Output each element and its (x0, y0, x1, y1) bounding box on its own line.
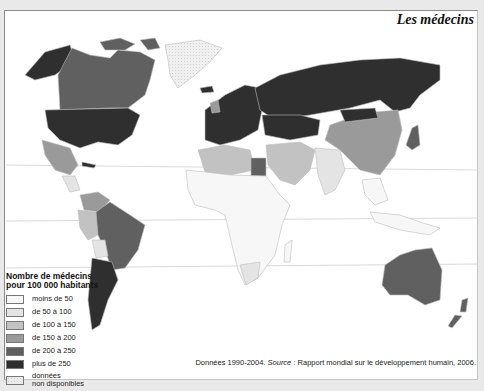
legend-label: de 200 à 250 (32, 347, 76, 355)
region-central-asia (262, 115, 320, 140)
legend-item: plus de 250 (6, 358, 126, 370)
legend-label: de 150 à 200 (32, 334, 76, 342)
region-brazil (96, 202, 145, 270)
region-usa (45, 108, 140, 148)
legend-label-line2: non disponibles (32, 380, 84, 388)
region-australia (382, 248, 442, 305)
legend-swatch (6, 360, 24, 369)
region-india (315, 148, 345, 195)
region-arctic-islands (100, 38, 160, 50)
region-central-america (62, 176, 80, 192)
source-note: Données 1990-2004. Source : Rapport mond… (195, 358, 476, 367)
region-iceland (200, 86, 214, 93)
legend-title-line2: pour 100 000 habitants (6, 281, 126, 290)
region-peru (78, 210, 98, 240)
map-title: Les médecins (397, 12, 474, 28)
region-middle-east (266, 142, 315, 185)
region-sub-saharan-africa (186, 170, 290, 285)
legend-item: de 100 à 150 (6, 319, 126, 331)
region-cuba (82, 162, 96, 168)
legend-item: moins de 50 (6, 293, 126, 305)
region-greenland (165, 40, 222, 88)
legend-item: de 200 à 250 (6, 345, 126, 357)
legend-title: Nombre de médecins pour 100 000 habitant… (6, 272, 126, 290)
legend-label: moins de 50 (32, 295, 73, 303)
region-canada (58, 48, 155, 110)
legend-label: données non disponibles (32, 372, 84, 388)
region-japan (406, 125, 420, 150)
legend-item: données non disponibles (6, 371, 126, 389)
region-bolivia (92, 240, 108, 258)
region-indonesia (370, 212, 440, 235)
legend-item: de 150 à 200 (6, 332, 126, 344)
region-north-africa (198, 145, 255, 175)
region-uk (210, 100, 220, 113)
legend-label: plus de 250 (32, 360, 71, 368)
region-south-africa (240, 262, 260, 285)
source-prefix: Données 1990-2004. (195, 358, 267, 367)
legend-item: de 50 à 100 (6, 306, 126, 318)
region-egypt (251, 158, 266, 176)
legend-swatch (6, 334, 24, 343)
legend-swatch (6, 347, 24, 356)
legend-swatch (6, 321, 24, 330)
region-europe (205, 85, 262, 145)
legend-label: de 50 à 100 (32, 308, 72, 316)
region-new-zealand (448, 298, 468, 328)
legend-label: de 100 à 150 (32, 321, 76, 329)
region-southeast-asia (362, 178, 388, 205)
region-madagascar (284, 240, 292, 262)
legend-swatch-dotted (6, 376, 24, 385)
source-label: Source (268, 358, 292, 367)
source-text: : Rapport mondial sur le développement h… (291, 358, 476, 367)
legend: Nombre de médecins pour 100 000 habitant… (6, 272, 126, 390)
legend-swatch (6, 295, 24, 304)
legend-swatch (6, 308, 24, 317)
